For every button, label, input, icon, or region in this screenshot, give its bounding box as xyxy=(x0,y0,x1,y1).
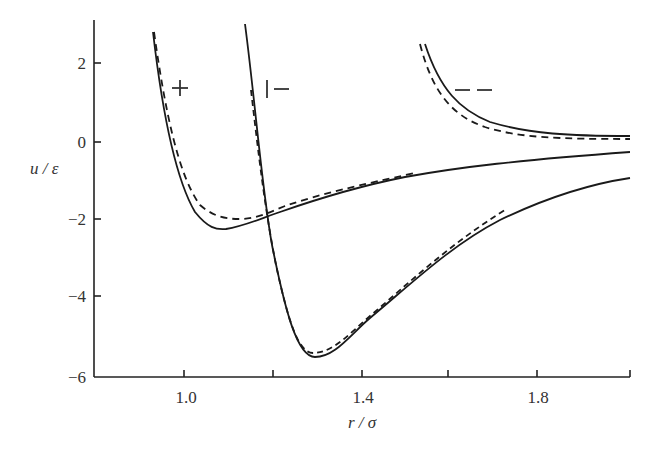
x-axis xyxy=(94,370,630,377)
y-tick-neg6: −6 xyxy=(68,368,86,387)
curve-mm-dashed xyxy=(420,44,630,139)
curve-pp-solid xyxy=(153,32,630,229)
y-tick-neg4: −4 xyxy=(68,287,87,306)
x-axis-title: r / σ xyxy=(348,413,377,432)
chart: 2 0 −2 −4 −6 1.0 1.4 1.8 u / ε r / σ xyxy=(0,0,661,450)
y-axis-title: u / ε xyxy=(30,159,59,178)
label-pm xyxy=(267,80,289,98)
y-tick-2: 2 xyxy=(78,54,87,73)
label-pp xyxy=(172,80,188,96)
y-axis xyxy=(94,20,101,377)
y-tick-neg2: −2 xyxy=(68,210,86,229)
x-tick-1-4: 1.4 xyxy=(352,388,374,407)
x-tick-1-0: 1.0 xyxy=(175,388,196,407)
curve-pp-dashed xyxy=(154,32,415,219)
x-tick-1-8: 1.8 xyxy=(527,388,548,407)
curve-pm-dashed xyxy=(251,90,505,353)
y-tick-0: 0 xyxy=(78,133,87,152)
